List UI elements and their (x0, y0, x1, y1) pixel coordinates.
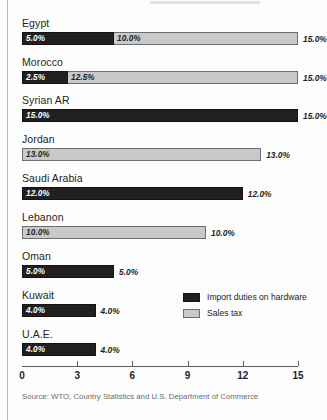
bar-track: 5.0% (22, 265, 114, 278)
x-axis-tick (132, 361, 133, 366)
bar-track: 4.0% (22, 304, 96, 317)
bar-segment-duties: 15.0% (22, 109, 298, 122)
bar-track: 4.0% (22, 343, 96, 356)
bar-row-label: Egypt (22, 18, 49, 29)
bar-segment-value: 10.0% (114, 34, 141, 43)
legend-item-sales-tax: Sales tax (183, 308, 307, 318)
bar-segment-sales_tax: 10.0% (114, 32, 298, 45)
bar-total-label: 4.0% (101, 306, 120, 316)
bar-total-label: 15.0% (303, 111, 327, 121)
bar-segment-duties: 5.0% (22, 32, 114, 45)
bar-track: 15.0% (22, 109, 298, 122)
bar-segment-value: 15.0% (23, 111, 50, 120)
bar-row-label: U.A.E. (22, 329, 53, 340)
bar-row-label: Saudi Arabia (22, 173, 83, 184)
bar-row-label: Jordan (22, 134, 55, 145)
bar-track: 10.0% (22, 226, 206, 239)
x-axis-tick (77, 361, 78, 366)
bar-track: 5.0%10.0% (22, 32, 298, 45)
bar-segment-sales_tax: 10.0% (22, 226, 206, 239)
bar-segment-value: 13.0% (23, 150, 50, 159)
bar-total-label: 15.0% (303, 34, 327, 44)
legend-swatch-sales-tax-icon (183, 309, 200, 318)
x-axis-tick-label: 0 (19, 370, 25, 381)
bar-segment-value: 12.5% (68, 73, 95, 82)
bar-row-label: Syrian AR (22, 95, 70, 106)
x-axis-tick-label: 12 (237, 370, 248, 381)
bar-segment-duties: 2.5% (22, 71, 68, 84)
x-axis-tick-label: 9 (185, 370, 191, 381)
bar-row-label: Kuwait (22, 290, 54, 301)
x-axis-tick (298, 361, 299, 366)
bar-segment-duties: 12.0% (22, 187, 243, 200)
legend-label-duties: Import duties on hardware (207, 292, 307, 302)
bar-segment-value: 12.0% (23, 189, 50, 198)
bar-segment-duties: 4.0% (22, 304, 96, 317)
chart-figure: Egypt5.0%10.0%15.0%Morocco2.5%12.5%15.0%… (0, 0, 327, 420)
bar-total-label: 4.0% (101, 345, 120, 355)
chart-legend: Import duties on hardware Sales tax (183, 292, 307, 324)
bar-total-label: 10.0% (211, 228, 235, 238)
bar-track: 12.0% (22, 187, 243, 200)
bar-segment-value: 4.0% (23, 306, 45, 315)
x-axis-tick-label: 15 (292, 370, 303, 381)
bar-total-label: 12.0% (248, 189, 272, 199)
bar-row-label: Oman (22, 251, 51, 262)
bar-track: 2.5%12.5% (22, 71, 298, 84)
x-axis-tick-label: 3 (74, 370, 80, 381)
bar-segment-value: 2.5% (23, 73, 45, 82)
source-note: Source: WTO, Country Statistics and U.S.… (22, 392, 258, 401)
x-axis-tick (188, 361, 189, 366)
legend-swatch-duties-icon (183, 293, 200, 302)
x-axis-line (22, 366, 298, 367)
bar-segment-value: 5.0% (23, 34, 45, 43)
bar-segment-value: 10.0% (23, 228, 50, 237)
x-axis-tick (243, 361, 244, 366)
bar-segment-value: 5.0% (23, 267, 45, 276)
bar-segment-duties: 5.0% (22, 265, 114, 278)
bar-segment-value: 4.0% (23, 345, 45, 354)
bar-row-label: Lebanon (22, 212, 64, 223)
bar-segment-sales_tax: 12.5% (68, 71, 298, 84)
bar-total-label: 5.0% (119, 267, 138, 277)
bar-segment-sales_tax: 13.0% (22, 148, 261, 161)
bar-track: 13.0% (22, 148, 261, 161)
legend-label-sales-tax: Sales tax (207, 308, 242, 318)
legend-item-duties: Import duties on hardware (183, 292, 307, 302)
bar-row-label: Morocco (22, 57, 63, 68)
plot-area: Egypt5.0%10.0%15.0%Morocco2.5%12.5%15.0%… (0, 0, 327, 420)
bar-segment-duties: 4.0% (22, 343, 96, 356)
bar-total-label: 13.0% (266, 150, 290, 160)
bar-total-label: 15.0% (303, 73, 327, 83)
x-axis-tick-label: 6 (130, 370, 136, 381)
